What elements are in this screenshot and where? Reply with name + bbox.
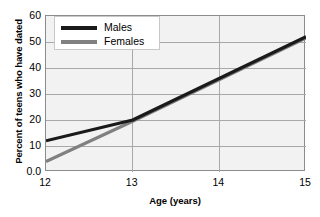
legend: MalesFemales <box>54 16 160 50</box>
y-tick-label: 10 <box>12 140 41 150</box>
y-tick-label: 50 <box>12 36 41 46</box>
x-axis-title: Age (years) <box>45 195 305 206</box>
y-tick-label: 20 <box>12 114 41 124</box>
legend-item: Males <box>59 21 155 34</box>
x-tick-label: 12 <box>25 176 65 188</box>
legend-color-swatch <box>61 26 97 30</box>
series-line-males <box>46 37 306 141</box>
x-tick-label: 15 <box>285 176 320 188</box>
y-tick-label: 30 <box>12 88 41 98</box>
legend-label: Males <box>104 22 132 33</box>
legend-color-swatch <box>61 40 97 44</box>
y-tick-label: 0.0 <box>12 166 41 176</box>
line-chart: Percent of teens who have dated 0.010203… <box>0 0 320 217</box>
y-tick-label: 40 <box>12 62 41 72</box>
legend-label: Females <box>104 36 144 47</box>
y-tick-label: 60 <box>12 10 41 20</box>
plot-area: MalesFemales <box>45 15 305 171</box>
legend-item: Females <box>59 35 155 48</box>
x-axis-tick-labels: 12131415 <box>0 176 320 192</box>
x-tick-label: 14 <box>198 176 238 188</box>
x-tick-label: 13 <box>112 176 152 188</box>
